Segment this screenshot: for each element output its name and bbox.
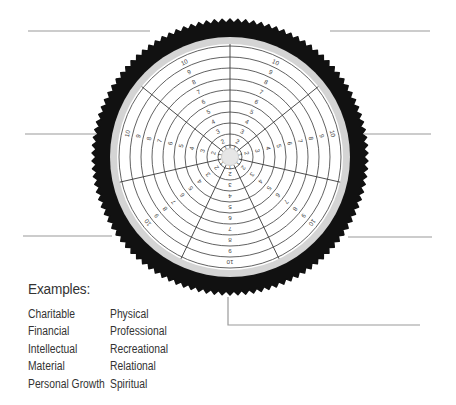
example-item: Financial	[28, 323, 99, 340]
examples-panel: Examples: CharitablePhysicalFinancialPro…	[28, 280, 200, 393]
examples-list: CharitablePhysicalFinancialProfessionalI…	[28, 306, 200, 393]
scale-label: 8	[228, 237, 232, 244]
scale-label: 4	[228, 193, 232, 200]
callout-line-bottom-center	[228, 297, 420, 325]
scale-label: 2	[228, 171, 232, 178]
example-item: Intellectual	[28, 341, 99, 358]
example-item: Material	[28, 358, 99, 375]
examples-title: Examples:	[28, 280, 179, 298]
scale-label: 3	[228, 182, 232, 189]
example-item: Spiritual	[110, 376, 187, 393]
example-item: Personal Growth	[28, 376, 99, 393]
example-item: Charitable	[28, 306, 99, 323]
hub	[222, 149, 239, 166]
scale-label: 5	[228, 204, 232, 211]
example-item: Professional	[110, 323, 187, 340]
scale-label: 10	[226, 259, 233, 266]
example-item: Physical	[110, 306, 187, 323]
scale-label: 9	[228, 248, 232, 255]
scale-label: 7	[228, 226, 232, 233]
scale-label: 6	[228, 215, 232, 222]
example-item: Recreational	[110, 341, 187, 358]
example-item: Relational	[110, 358, 187, 375]
